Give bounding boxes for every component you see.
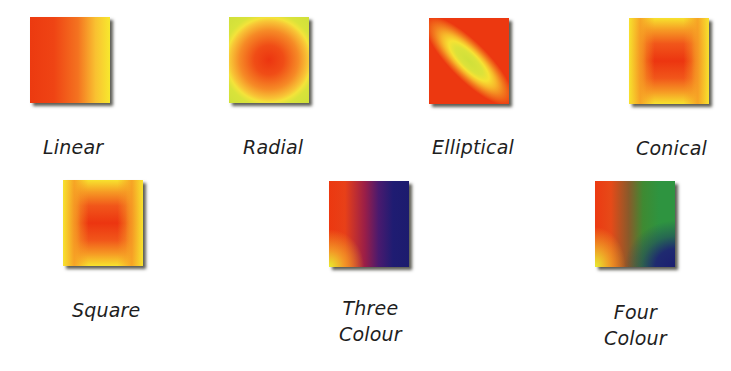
radial-gradient-swatch bbox=[229, 17, 309, 103]
three-colour-label-line1: Three bbox=[339, 295, 402, 321]
square-gradient-edge-layer bbox=[63, 180, 143, 266]
three-colour-gradient-swatch bbox=[329, 181, 409, 267]
conical-gradient-swatch bbox=[629, 18, 709, 104]
elliptical-label: Elliptical bbox=[432, 134, 514, 160]
linear-label: Linear bbox=[43, 134, 103, 160]
four-colour-label-line2: Colour bbox=[604, 325, 667, 351]
three-colour-label: Three Colour bbox=[339, 295, 402, 347]
three-colour-label-line2: Colour bbox=[339, 321, 402, 347]
square-gradient-swatch bbox=[63, 180, 143, 266]
conical-gradient-edge-layer bbox=[629, 18, 709, 104]
radial-label: Radial bbox=[243, 134, 303, 160]
linear-gradient-swatch bbox=[30, 17, 110, 103]
four-colour-label-line1: Four bbox=[604, 299, 667, 325]
square-label: Square bbox=[72, 297, 141, 323]
elliptical-gradient-swatch bbox=[429, 18, 509, 104]
four-colour-label: Four Colour bbox=[604, 299, 667, 351]
conical-label: Conical bbox=[636, 135, 707, 161]
four-colour-gradient-swatch bbox=[595, 181, 675, 267]
